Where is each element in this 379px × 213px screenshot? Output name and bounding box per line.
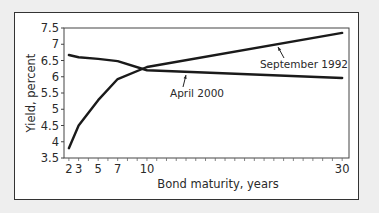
y-tick-label: 6 — [52, 70, 59, 84]
y-tick-label: 4.5 — [41, 119, 59, 133]
y-tick-label: 5 — [52, 102, 59, 116]
y-tick-label: 7 — [52, 37, 59, 51]
y-tick-label: 5.5 — [41, 86, 59, 100]
series-annotation: April 2000 — [170, 87, 224, 99]
series-annotation: September 1992 — [260, 58, 348, 70]
x-tick-label: 7 — [114, 162, 121, 176]
y-tick-label: 7.5 — [41, 21, 59, 35]
y-axis-title: Yield, percent — [24, 53, 38, 133]
x-tick-label: 2 — [65, 162, 72, 176]
yield-curve-chart: 3.544.555.566.577.5 23571030 September 1… — [0, 0, 379, 213]
x-tick-label: 30 — [335, 162, 350, 176]
y-tick-label: 6.5 — [41, 54, 59, 68]
y-axis: 3.544.555.566.577.5 — [41, 21, 64, 165]
x-tick-label: 5 — [94, 162, 101, 176]
x-tick-label: 10 — [140, 162, 155, 176]
x-axis-title: Bond maturity, years — [157, 177, 278, 191]
x-axis: 23571030 — [65, 158, 349, 176]
y-tick-label: 3.5 — [41, 151, 59, 165]
x-tick-label: 3 — [75, 162, 82, 176]
y-tick-label: 4 — [52, 135, 59, 149]
